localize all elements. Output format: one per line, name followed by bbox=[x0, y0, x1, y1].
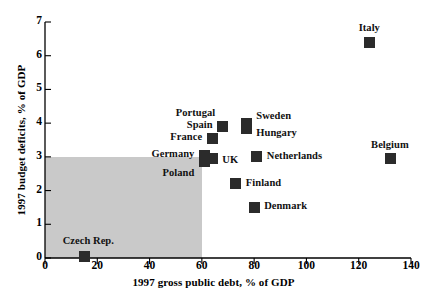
data-point-label: Belgium bbox=[371, 139, 409, 150]
data-point-marker bbox=[241, 123, 252, 134]
data-point-marker bbox=[364, 37, 375, 48]
data-point-label: France bbox=[170, 131, 202, 142]
data-point-marker bbox=[249, 202, 260, 213]
data-point-marker bbox=[217, 121, 228, 132]
data-point-label: Czech Rep. bbox=[63, 235, 114, 246]
data-point-marker bbox=[199, 156, 210, 167]
scatter-chart: ItalyPortugalSpainSwedenHungaryFranceGer… bbox=[0, 0, 427, 297]
data-point-label: Poland bbox=[162, 167, 194, 178]
data-point-label: Denmark bbox=[264, 200, 307, 211]
data-point-marker bbox=[385, 153, 396, 164]
x-tick-label: 80 bbox=[234, 259, 274, 271]
x-tick-label: 40 bbox=[130, 259, 170, 271]
data-point-label: Sweden bbox=[256, 110, 291, 121]
data-point-marker bbox=[230, 178, 241, 189]
data-point-label: Italy bbox=[359, 22, 380, 33]
data-point-label: UK bbox=[222, 154, 238, 165]
y-axis-title: 1997 budget deficits, % of GDP bbox=[15, 15, 27, 265]
axis-lines bbox=[45, 22, 411, 258]
tick-marks bbox=[45, 22, 411, 264]
data-point-label: Finland bbox=[246, 177, 281, 188]
data-point-label: Portugal bbox=[176, 107, 215, 118]
x-axis-title: 1997 gross public debt, % of GDP bbox=[0, 276, 427, 288]
data-point-label: Hungary bbox=[256, 127, 297, 138]
x-tick-label: 60 bbox=[182, 259, 222, 271]
x-tick-label: 140 bbox=[391, 259, 427, 271]
x-tick-label: 20 bbox=[77, 259, 117, 271]
data-point-marker bbox=[207, 133, 218, 144]
x-tick-label: 120 bbox=[339, 259, 379, 271]
data-point-label: Spain bbox=[187, 119, 213, 130]
data-point-label: Netherlands bbox=[267, 150, 322, 161]
data-point-label: Germany bbox=[151, 148, 194, 159]
x-tick-label: 100 bbox=[286, 259, 326, 271]
data-point-marker bbox=[251, 151, 262, 162]
